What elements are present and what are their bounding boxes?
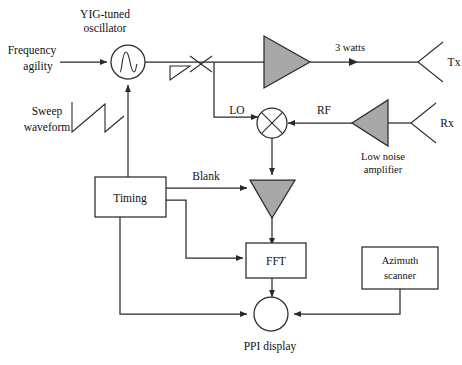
label-three-watts: 3 watts	[335, 42, 365, 53]
label-yig-oscillator-line1: YIG-tuned	[80, 8, 130, 20]
blanked-if-amplifier	[250, 180, 295, 218]
label-rf: RF	[317, 104, 331, 116]
label-sweep-waveform-line1: Sweep	[32, 105, 63, 118]
label-lo: LO	[229, 104, 244, 116]
rx-antenna-symbol	[411, 103, 436, 143]
sweep-waveform-icon	[72, 102, 124, 132]
label-sweep-waveform-line2: waveform	[24, 121, 71, 133]
ppi-display-symbol	[254, 297, 288, 331]
label-timing: Timing	[113, 192, 147, 205]
tx-antenna-symbol	[418, 42, 443, 82]
low-noise-amplifier	[352, 100, 388, 146]
label-azimuth-scanner-line1: Azimuth	[382, 255, 419, 266]
wire-timing-to-ppi-display	[120, 217, 247, 314]
wire-azimuth-scanner-to-ppi-display	[294, 289, 400, 314]
label-yig-oscillator-line2: oscillator	[84, 22, 127, 34]
label-blank: Blank	[192, 170, 220, 182]
wire-timing-to-fft	[166, 200, 243, 258]
label-low-noise-amplifier-line2: amplifier	[364, 164, 403, 175]
azimuth-scanner-block	[362, 247, 438, 289]
flow-arrow-3-watts	[349, 58, 358, 66]
label-azimuth-scanner-line2: scanner	[384, 270, 417, 281]
directional-coupler-symbol	[170, 56, 212, 80]
label-low-noise-amplifier-line1: Low noise	[361, 151, 405, 162]
radar-block-diagram: YIG-tuned oscillator Frequency agility S…	[0, 0, 462, 365]
yig-tuned-oscillator-symbol	[111, 45, 145, 79]
transmit-power-amplifier	[264, 36, 310, 88]
label-tx: Tx	[448, 56, 461, 68]
label-fft: FFT	[266, 255, 286, 267]
label-ppi-display: PPI display	[244, 340, 297, 353]
label-frequency-agility-line1: Frequency	[8, 44, 57, 57]
label-rx: Rx	[440, 117, 454, 129]
label-frequency-agility-line2: agility	[23, 60, 53, 73]
mixer-symbol	[257, 108, 287, 138]
block-diagram-canvas: YIG-tuned oscillator Frequency agility S…	[0, 0, 462, 365]
